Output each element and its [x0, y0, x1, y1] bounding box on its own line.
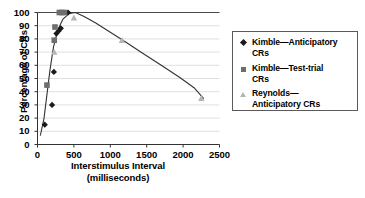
- y-tick-label: 10: [8, 126, 30, 136]
- data-point-diamond: [51, 69, 57, 75]
- y-tick-label: 100: [8, 8, 30, 18]
- triangle-marker-icon: [239, 89, 250, 100]
- y-tick-label: 70: [8, 47, 30, 57]
- x-tick-label: 500: [54, 150, 94, 160]
- legend-label: Kimble—Test-trialCRs: [252, 63, 323, 84]
- x-tick-label: 2500: [200, 150, 240, 160]
- fitted-curve: [40, 13, 203, 136]
- legend-label: Reynolds—Anticipatory CRs: [252, 88, 320, 109]
- y-tick-label: 30: [8, 100, 30, 110]
- x-axis-title: Interstimulus Interval (milliseconds): [20, 160, 216, 184]
- legend: Kimble—AnticipatoryCRs Kimble—Test-trial…: [232, 31, 358, 111]
- x-tick-label: 1000: [90, 150, 130, 160]
- legend-item-kimble-test-trial[interactable]: Kimble—Test-trialCRs: [239, 63, 355, 84]
- data-point-square: [52, 24, 58, 30]
- y-tick-label: 80: [8, 34, 30, 44]
- y-tick-label: 0: [8, 140, 30, 150]
- x-axis-title-line1: Interstimulus Interval: [20, 160, 216, 172]
- data-point-square: [51, 37, 57, 43]
- data-point-square: [62, 10, 68, 16]
- legend-item-kimble-anticipatory[interactable]: Kimble—AnticipatoryCRs: [239, 37, 355, 58]
- y-tick-label: 20: [8, 113, 30, 123]
- y-tick-label: 90: [8, 21, 30, 31]
- x-tick-label: 0: [18, 150, 58, 160]
- y-tick-label: 50: [8, 74, 30, 84]
- legend-label: Kimble—AnticipatoryCRs: [252, 37, 337, 58]
- data-point-square: [44, 82, 50, 88]
- data-point-triangle: [71, 15, 77, 21]
- y-tick-label: 40: [8, 87, 30, 97]
- x-axis-title-line2: (milliseconds): [20, 172, 216, 184]
- legend-item-reynolds-anticipatory[interactable]: Reynolds—Anticipatory CRs: [239, 88, 355, 109]
- x-tick-label: 2000: [163, 150, 203, 160]
- data-point-diamond: [49, 102, 55, 108]
- diamond-marker-icon: [239, 38, 250, 49]
- chart-figure: Percentage of CRs 0102030405060708090100…: [0, 0, 365, 198]
- square-marker-icon: [239, 64, 250, 75]
- x-tick-label: 1500: [127, 150, 167, 160]
- y-tick-label: 60: [8, 60, 30, 70]
